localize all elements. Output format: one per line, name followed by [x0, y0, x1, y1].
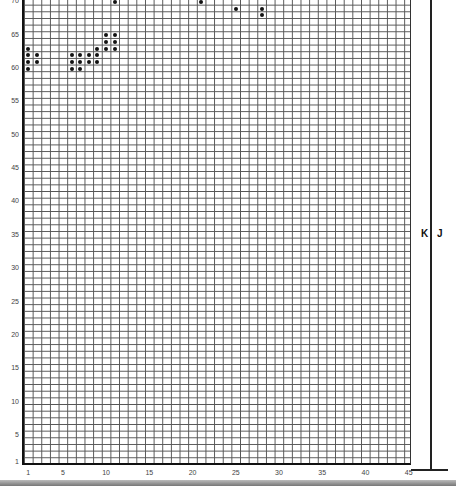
bottom-edge [0, 480, 456, 486]
x-tick-label: 40 [362, 469, 370, 476]
pattern-dot [35, 60, 39, 64]
pattern-dot [104, 47, 108, 51]
pattern-dot [26, 47, 30, 51]
y-tick-label: 5 [2, 431, 19, 438]
y-tick-label: 55 [2, 97, 19, 104]
y-tick-label: 10 [2, 398, 19, 405]
pattern-dot [113, 40, 117, 44]
x-tick-label: 35 [318, 469, 326, 476]
y-tick-label: 20 [2, 331, 19, 338]
y-tick-label: 25 [2, 298, 19, 305]
x-tick-label: 25 [232, 469, 240, 476]
y-tick-label: 30 [2, 264, 19, 271]
pattern-dot [113, 33, 117, 37]
pattern-dot [26, 67, 30, 71]
y-tick-label: 1 [2, 458, 19, 465]
pattern-dot [113, 0, 117, 4]
label-j: J [437, 228, 443, 239]
x-tick-label: 20 [189, 469, 197, 476]
dot-grid-chart: 1510152025303540455055606570 15101520253… [0, 0, 456, 486]
pattern-dot [260, 7, 264, 11]
x-tick-label: 30 [275, 469, 283, 476]
pattern-dot [104, 40, 108, 44]
x-tick-label: 5 [61, 469, 65, 476]
x-tick-label: 10 [102, 469, 110, 476]
y-tick-label: 15 [2, 364, 19, 371]
y-tick-label: 35 [2, 231, 19, 238]
x-tick-label: 15 [145, 469, 153, 476]
y-tick-label: 45 [2, 164, 19, 171]
pattern-dot [260, 13, 264, 17]
y-tick-label: 70 [2, 0, 19, 4]
pattern-dot [87, 60, 91, 64]
base-line [411, 469, 448, 471]
y-tick-label: 65 [2, 31, 19, 38]
pattern-dot [234, 7, 238, 11]
y-tick-label: 40 [2, 197, 19, 204]
pattern-dot [113, 47, 117, 51]
pattern-dot [70, 67, 74, 71]
x-tick-label: 1 [26, 469, 30, 476]
y-tick-label: 60 [2, 64, 19, 71]
pattern-dot [78, 67, 82, 71]
label-k: K [421, 228, 428, 239]
pattern-dot [70, 53, 74, 57]
y-tick-label: 50 [2, 131, 19, 138]
divider-line [430, 0, 432, 471]
pattern-dot [70, 60, 74, 64]
